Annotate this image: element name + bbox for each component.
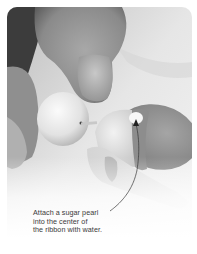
instruction-caption: Attach a sugar pearl into the center of … xyxy=(33,209,153,235)
caption-line-3: the ribbon with water. xyxy=(33,226,153,235)
